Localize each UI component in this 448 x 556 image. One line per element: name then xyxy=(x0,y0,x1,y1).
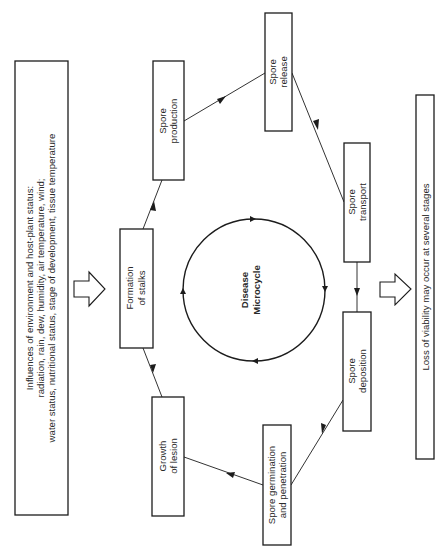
influence-line-2: radiation, rain, dew, humidity, air temp… xyxy=(35,179,46,398)
disease-microcycle-diagram: Influences of environment and host-plant… xyxy=(0,0,448,556)
microcycle-title-line-1: Disease xyxy=(239,272,250,308)
influence-line-3: water status, nutritional status, stage … xyxy=(46,134,57,444)
svg-text:Spore: Spore xyxy=(346,358,357,384)
stage-spore-release: Spore release xyxy=(265,13,292,131)
svg-text:Formation: Formation xyxy=(124,266,135,309)
stage-label-line-1: Spore xyxy=(267,59,278,85)
svg-text:deposition: deposition xyxy=(357,349,368,393)
svg-text:release: release xyxy=(278,56,289,87)
stage-label-line-2: and penetration xyxy=(277,452,288,519)
stage-label-line-1: Spore xyxy=(346,189,357,215)
influence-box: Influences of environment and host-plant… xyxy=(15,61,68,515)
stage-spore-transport: Spore transport xyxy=(344,143,370,262)
stage-label-line-2: production xyxy=(168,99,179,144)
svg-text:Disease: Disease xyxy=(239,272,250,308)
stage-label-line-2: of lesion xyxy=(168,438,179,474)
stage-label-line-2: release xyxy=(278,56,289,87)
stage-spore-deposition: Spore deposition xyxy=(343,312,371,431)
loss-of-viability-box: Loss of viability may occur at several s… xyxy=(416,95,434,459)
svg-text:Spore germination: Spore germination xyxy=(266,446,277,524)
stage-growth-of-lesion: Growth of lesion xyxy=(152,397,184,516)
svg-text:Growth: Growth xyxy=(157,441,168,472)
stage-label-line-1: Formation xyxy=(124,266,135,309)
stage-label-line-2: transport xyxy=(357,183,368,221)
arrowhead-icon xyxy=(354,288,360,296)
svg-text:water status, nutritional stat: water status, nutritional status, stage … xyxy=(46,134,57,444)
svg-text:transport: transport xyxy=(357,183,368,221)
svg-text:Influences of environment and: Influences of environment and host-plant… xyxy=(24,186,35,390)
svg-text:Spore: Spore xyxy=(157,108,168,134)
svg-text:production: production xyxy=(168,99,179,144)
loss-of-viability-text: Loss of viability may occur at several s… xyxy=(420,183,431,370)
stage-label-line-2: deposition xyxy=(357,349,368,393)
hollow-arrow-right-icon xyxy=(380,274,411,305)
svg-text:Spore: Spore xyxy=(346,189,357,215)
stage-spore-germination: Spore germination and penetration xyxy=(263,425,291,545)
stage-label-line-1: Spore germination xyxy=(266,446,277,524)
influence-line-1: Influences of environment and host-plant… xyxy=(24,186,35,390)
stage-label-line-1: Growth xyxy=(157,441,168,472)
arrowhead-icon xyxy=(217,96,226,104)
hollow-arrow-right-icon xyxy=(74,272,105,306)
svg-text:and penetration: and penetration xyxy=(277,452,288,519)
svg-text:radiation, rain, dew, humidity: radiation, rain, dew, humidity, air temp… xyxy=(35,179,46,398)
stage-label-line-1: Spore xyxy=(346,358,357,384)
stage-spore-production: Spore production xyxy=(153,61,184,180)
arrowhead-icon xyxy=(252,358,258,364)
stage-label-line-1: Spore xyxy=(157,108,168,134)
svg-text:of lesion: of lesion xyxy=(168,438,179,474)
microcycle-circle: Disease Microcycle xyxy=(180,216,328,364)
arrowhead-icon xyxy=(226,472,235,478)
stage-label-line-2: of stalks xyxy=(136,270,147,305)
svg-text:Microcycle: Microcycle xyxy=(251,265,262,315)
svg-text:of stalks: of stalks xyxy=(136,270,147,305)
svg-text:Loss of viability may occur at: Loss of viability may occur at several s… xyxy=(420,183,431,370)
arrowhead-icon xyxy=(250,216,256,222)
arrowhead-icon xyxy=(180,288,186,294)
microcycle-title-line-2: Microcycle xyxy=(251,265,262,315)
stage-formation-of-stalks: Formation of stalks xyxy=(120,229,153,348)
svg-text:Spore: Spore xyxy=(267,59,278,85)
arrowhead-icon xyxy=(322,286,328,292)
